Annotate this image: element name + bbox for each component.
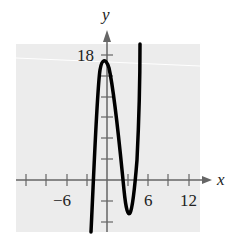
y-axis-arrow-icon [103,30,111,42]
x-axis-label: x [217,171,225,188]
graph-plot [0,0,238,235]
y-tick-label-18: 18 [77,47,94,64]
x-axis-arrow-icon [202,176,212,184]
x-tick-label-12: 12 [180,192,197,209]
x-tick-label-neg6: −6 [53,192,71,209]
x-tick-label-6: 6 [144,192,153,209]
y-axis-label: y [102,6,110,23]
